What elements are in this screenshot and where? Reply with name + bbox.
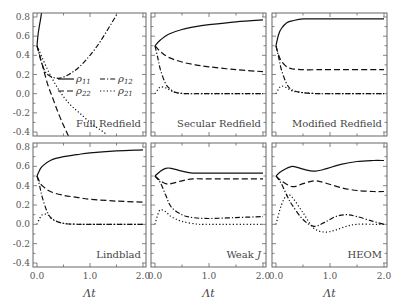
y-tick-label: -0.2 bbox=[13, 239, 30, 249]
legend-entry: ρ21 bbox=[117, 85, 133, 98]
series-dashed bbox=[155, 176, 263, 184]
panel-weak-j: Weak J0.01.02.0Λt bbox=[148, 143, 271, 300]
panel-secular-redfield: Secular Redfield bbox=[151, 13, 266, 136]
panel-full-redfield: Full Redfield0.80.60.40.20.0-0.2-0.4ρ11ρ… bbox=[13, 7, 146, 137]
x-tick-label: 0.0 bbox=[269, 271, 284, 281]
series-dashed bbox=[37, 176, 143, 202]
panel-title: Full Redfield bbox=[76, 118, 142, 129]
series-dashed bbox=[276, 46, 384, 70]
y-tick-label: 0.8 bbox=[16, 12, 31, 22]
panel-heom: HEOM0.01.02.0Λt bbox=[269, 143, 392, 300]
series-dashdot bbox=[155, 46, 263, 94]
series-dotted bbox=[276, 195, 384, 233]
y-tick-label: 0.6 bbox=[16, 161, 31, 171]
y-tick-label: 0.4 bbox=[16, 50, 31, 60]
panel-title: Secular Redfield bbox=[177, 118, 262, 129]
y-tick-label: 0.8 bbox=[16, 142, 31, 152]
y-tick-label: 0.6 bbox=[16, 31, 31, 41]
x-axis-title: Λt bbox=[82, 287, 96, 300]
panel-title: Modified Redfield bbox=[292, 118, 383, 129]
y-tick-label: 0.2 bbox=[16, 70, 30, 80]
y-tick-label: 0.4 bbox=[16, 181, 31, 191]
series-solid bbox=[276, 19, 384, 46]
x-tick-label: 1.0 bbox=[202, 271, 217, 281]
y-tick-label: 0.2 bbox=[16, 200, 30, 210]
panel-title: Weak J bbox=[226, 249, 262, 260]
series-solid bbox=[37, 150, 143, 176]
x-tick-label: 0.0 bbox=[148, 271, 163, 281]
x-tick-label: 1.0 bbox=[323, 271, 338, 281]
series-dashed bbox=[37, 46, 69, 137]
x-axis-title: Λt bbox=[201, 287, 215, 300]
series-dashdot bbox=[276, 176, 384, 226]
panel-modified-redfield: Modified Redfield bbox=[272, 13, 387, 136]
panel-title: Lindblad bbox=[96, 249, 141, 260]
y-tick-label: 0.0 bbox=[16, 219, 31, 229]
y-tick-label: -0.2 bbox=[13, 108, 30, 118]
series-dashdot bbox=[37, 176, 143, 224]
panel-title: HEOM bbox=[348, 249, 382, 260]
panel-lindblad: Lindblad0.80.60.40.20.0-0.2-0.40.01.02.0… bbox=[13, 142, 151, 300]
x-tick-label: 0.0 bbox=[30, 271, 45, 281]
x-axis-title: Λt bbox=[322, 287, 336, 300]
series-dashed bbox=[155, 46, 263, 72]
series-solid bbox=[276, 160, 384, 176]
series-solid bbox=[155, 168, 263, 176]
series-dashdot bbox=[155, 176, 263, 219]
figure: Full Redfield0.80.60.40.20.0-0.2-0.4ρ11ρ… bbox=[0, 0, 400, 305]
series-dashdot bbox=[37, 15, 117, 78]
series-dashed bbox=[276, 176, 384, 192]
y-tick-label: -0.4 bbox=[13, 258, 31, 268]
x-tick-label: 2.0 bbox=[377, 271, 392, 281]
series-solid bbox=[155, 20, 263, 46]
x-tick-label: 1.0 bbox=[83, 271, 98, 281]
legend-entry: ρ22 bbox=[75, 85, 91, 98]
y-tick-label: 0.0 bbox=[16, 89, 31, 99]
series-dotted bbox=[37, 214, 143, 224]
y-tick-label: -0.4 bbox=[13, 127, 31, 137]
legend: ρ11ρ12ρ22ρ21 bbox=[58, 73, 133, 98]
